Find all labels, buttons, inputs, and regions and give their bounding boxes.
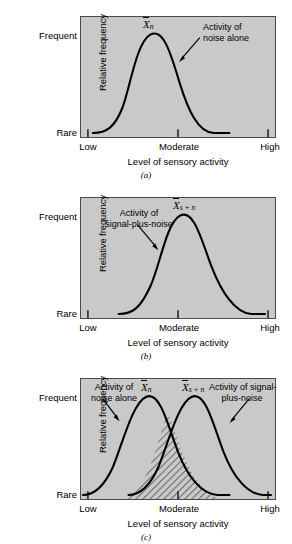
y-tick-rare-a: Rare: [56, 127, 77, 138]
x-tick-low-c: Low: [79, 503, 96, 514]
y-tick-frequent-b: Frequent: [39, 211, 77, 222]
y-tick-rare-c: Rare: [56, 489, 77, 500]
x-tick-moderate-a: Moderate: [159, 141, 199, 152]
x-axis-label-c: Level of sensory activity: [128, 518, 229, 529]
panel-c: Relative frequency Frequent Rare Low Mod…: [0, 364, 292, 544]
x-tick-low-a: Low: [79, 141, 96, 152]
x-tick-high-b: High: [260, 322, 280, 333]
annotation-signal-plus-noise-c: Activity of signal- plus-noise: [209, 382, 275, 403]
annotation-noise-alone-a: Activity of noise alone: [203, 22, 249, 43]
y-tick-frequent-a: Frequent: [39, 30, 77, 41]
x-axis-label-b: Level of sensory activity: [128, 337, 229, 348]
caption-b: (b): [0, 351, 292, 361]
y-tick-rare-b: Rare: [56, 308, 77, 319]
caption-a: (a): [0, 170, 292, 180]
figure-signal-detection-distributions: Relative frequency Frequent Rare Low Mod…: [0, 0, 292, 544]
mean-noise-subscript-a: n: [150, 22, 154, 31]
panel-a: Relative frequency Frequent Rare Low Mod…: [0, 2, 292, 183]
caption-c: (c): [0, 532, 292, 542]
x-axis-label-a: Level of sensory activity: [128, 156, 229, 167]
mean-noise-symbol-a: Xn: [143, 18, 153, 30]
x-tick-high-a: High: [260, 141, 280, 152]
plot-area-a: Relative frequency Frequent Rare Low Mod…: [80, 16, 276, 138]
x-tick-moderate-c: Moderate: [159, 503, 199, 514]
mean-noise-subscript-c: n: [148, 385, 152, 394]
annotation-noise-alone-c: Activity of noise alone: [83, 382, 145, 403]
x-tick-moderate-b: Moderate: [159, 322, 199, 333]
y-tick-frequent-c: Frequent: [39, 392, 77, 403]
mean-signal-plus-noise-symbol-c: Xs + n: [182, 381, 204, 393]
x-tick-high-c: High: [260, 503, 280, 514]
annotation-signal-plus-noise-b: Activity of signal-plus-noise: [87, 208, 191, 229]
plot-area-b: Relative frequency Frequent Rare Low Mod…: [80, 197, 276, 319]
plot-area-c: Relative frequency Frequent Rare Low Mod…: [80, 378, 276, 500]
mean-signal-plus-noise-subscript-c: s + n: [189, 385, 204, 394]
x-tick-low-b: Low: [79, 322, 96, 333]
panel-b: Relative frequency Frequent Rare Low Mod…: [0, 183, 292, 364]
